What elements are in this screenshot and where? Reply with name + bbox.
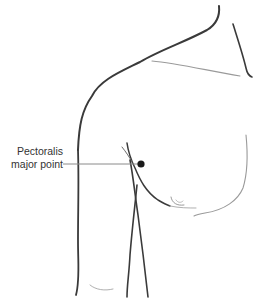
annotation-label: Pectoralis major point bbox=[5, 145, 63, 171]
annotation-label-line1: Pectoralis bbox=[5, 145, 63, 158]
anatomy-diagram: Pectoralis major point bbox=[0, 0, 261, 306]
neck-outline bbox=[233, 24, 252, 77]
chest-right-outline bbox=[194, 135, 247, 216]
pectoralis-major-point-marker bbox=[137, 160, 144, 167]
nipple-inner bbox=[176, 200, 183, 202]
elbow-crease bbox=[90, 285, 113, 290]
armpit-outline bbox=[127, 143, 170, 206]
annotation-label-line2: major point bbox=[5, 158, 63, 171]
clavicle-line bbox=[152, 61, 240, 76]
outer-arm-outline bbox=[76, 150, 79, 295]
shoulder-outline bbox=[78, 6, 219, 150]
chest-lower-curve bbox=[170, 206, 196, 208]
